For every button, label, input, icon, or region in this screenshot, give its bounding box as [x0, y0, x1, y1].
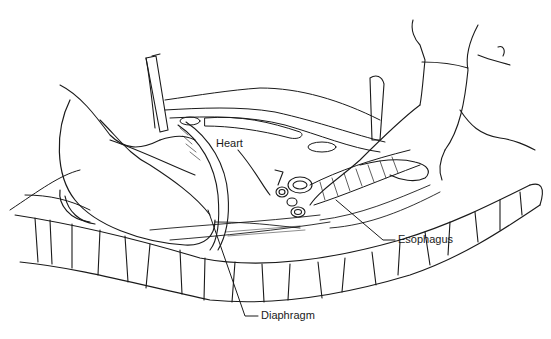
chest-wall: [165, 88, 385, 152]
label-esophagus: Esophagus: [398, 233, 453, 245]
label-diaphragm: Diaphragm: [261, 309, 315, 321]
great-vessels: [275, 170, 312, 217]
retractor-left: [146, 54, 168, 132]
right-gloved-hand: [310, 20, 535, 205]
esophagus-tube: [310, 150, 420, 205]
anatomical-illustration: [0, 0, 551, 339]
retractor-right: [370, 76, 384, 140]
retracted-organ: [59, 100, 215, 245]
body-wall: [15, 184, 542, 302]
label-heart: Heart: [216, 137, 243, 149]
esophagus-leader: [336, 200, 395, 240]
left-gloved-hand: [60, 85, 210, 215]
illustration-drawing: [0, 0, 551, 339]
